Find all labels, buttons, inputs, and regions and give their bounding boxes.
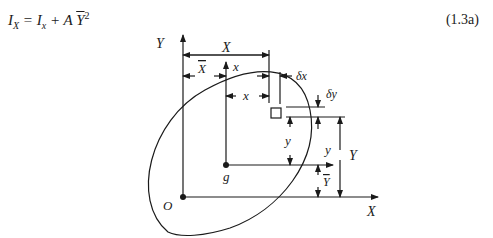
parallel-axis-diagram: Y X O g X X x x δx δy y y Y Y — [0, 0, 493, 238]
label-Y-axis: Y — [156, 36, 166, 51]
label-dim-X: X — [221, 40, 231, 55]
label-dim-dx: δx — [296, 69, 308, 83]
centroid-point — [223, 162, 229, 168]
label-dim-y: y — [283, 133, 291, 148]
label-dim-x: x — [242, 88, 249, 103]
element-square — [271, 108, 281, 118]
label-dim-Xbar: X — [197, 61, 207, 76]
origin-point — [180, 194, 186, 200]
label-dim-Y: Y — [349, 148, 359, 163]
label-dim-Ybar: Y — [323, 175, 331, 189]
label-local-y-axis: y — [323, 142, 331, 157]
label-dim-dy: δy — [326, 87, 338, 101]
label-local-x-axis: x — [232, 59, 239, 74]
label-origin: O — [163, 198, 173, 213]
label-centroid: g — [223, 169, 230, 184]
label-X-axis: X — [366, 204, 376, 219]
